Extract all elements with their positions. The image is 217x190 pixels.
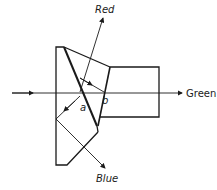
- label-red: Red: [95, 4, 115, 15]
- label-b: b: [102, 95, 108, 106]
- label-blue: Blue: [96, 173, 118, 184]
- red-reflection-arrow: [80, 78, 92, 85]
- prism-diagram: Red Green Blue a b: [0, 0, 217, 190]
- blue-reflection-arrow: [64, 101, 75, 111]
- label-green: Green: [186, 88, 216, 99]
- left-prism-outline: [56, 47, 98, 165]
- prism-lower-joint: [97, 126, 98, 132]
- label-a: a: [80, 102, 86, 113]
